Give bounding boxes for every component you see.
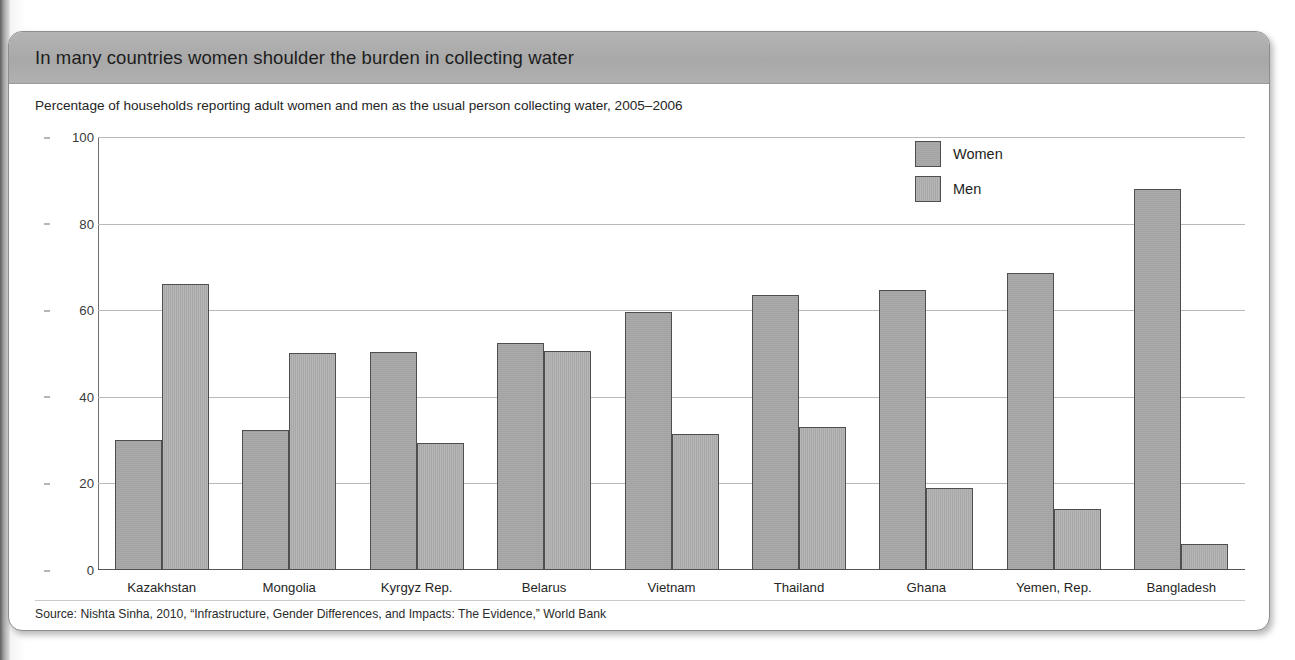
figure-card: In many countries women shoulder the bur… <box>8 31 1270 631</box>
bar-men-belarus <box>544 351 591 570</box>
chart-legend: Women Men <box>915 141 1105 211</box>
bar-men-kyrgyz-rep <box>417 443 464 570</box>
figure-title: In many countries women shoulder the bur… <box>35 47 574 69</box>
y-tick-label: 20 <box>50 476 94 491</box>
bar-men-kazakhstan <box>162 284 209 570</box>
x-tick-label: Mongolia <box>262 580 316 595</box>
x-tick-label: Belarus <box>522 580 567 595</box>
figure-body: Percentage of households reporting adult… <box>9 84 1269 631</box>
figure-header: In many countries women shoulder the bur… <box>9 32 1269 84</box>
bar-women-thailand <box>752 295 799 570</box>
x-tick-label: Yemen, Rep. <box>1016 580 1092 595</box>
source-divider <box>35 600 1245 601</box>
bar-group <box>752 137 846 570</box>
x-tick-label: Vietnam <box>647 580 695 595</box>
bar-women-ghana <box>879 290 926 570</box>
legend-label-men: Men <box>953 181 981 197</box>
y-tick-mark <box>44 310 50 311</box>
y-tick-mark <box>44 483 50 484</box>
x-tick-label: Thailand <box>774 580 825 595</box>
bar-women-yemen-rep <box>1007 273 1054 570</box>
y-tick-mark <box>44 397 50 398</box>
y-tick-label: 80 <box>50 216 94 231</box>
bar-women-kyrgyz-rep <box>370 352 417 570</box>
y-tick-label: 60 <box>50 303 94 318</box>
bar-group <box>370 137 464 570</box>
bar-women-bangladesh <box>1134 189 1181 570</box>
bar-women-kazakhstan <box>115 440 162 570</box>
bar-men-yemen-rep <box>1054 509 1101 570</box>
legend-item-women: Women <box>915 141 1105 167</box>
y-tick-mark <box>44 224 50 225</box>
bar-men-thailand <box>799 427 846 570</box>
legend-label-women: Women <box>953 146 1003 162</box>
bar-group <box>497 137 591 570</box>
bar-men-mongolia <box>289 353 336 570</box>
y-tick-mark <box>44 137 50 138</box>
x-axis-labels: KazakhstanMongoliaKyrgyz Rep.BelarusViet… <box>98 580 1245 602</box>
y-tick-label: 40 <box>50 389 94 404</box>
bar-women-mongolia <box>242 430 289 570</box>
bar-men-vietnam <box>672 434 719 570</box>
bar-women-belarus <box>497 343 544 570</box>
bar-group <box>1134 137 1228 570</box>
x-tick-label: Kyrgyz Rep. <box>381 580 453 595</box>
bar-women-vietnam <box>625 312 672 570</box>
bar-men-ghana <box>926 488 973 570</box>
bar-group <box>115 137 209 570</box>
bar-group <box>625 137 719 570</box>
y-tick-label: 100 <box>50 130 94 145</box>
bar-men-bangladesh <box>1181 544 1228 570</box>
bar-group <box>242 137 336 570</box>
legend-swatch-men-icon <box>915 176 941 202</box>
bar-chart: 020406080100 KazakhstanMongoliaKyrgyz Re… <box>35 128 1245 583</box>
x-tick-label: Ghana <box>907 580 947 595</box>
legend-item-men: Men <box>915 176 1105 202</box>
figure-subtitle: Percentage of households reporting adult… <box>35 98 683 113</box>
y-tick-mark <box>44 570 50 571</box>
x-tick-label: Kazakhstan <box>127 580 196 595</box>
figure-source: Source: Nishta Sinha, 2010, “Infrastruct… <box>35 607 606 621</box>
legend-swatch-women-icon <box>915 141 941 167</box>
y-tick-label: 0 <box>50 563 94 578</box>
x-tick-label: Bangladesh <box>1146 580 1216 595</box>
